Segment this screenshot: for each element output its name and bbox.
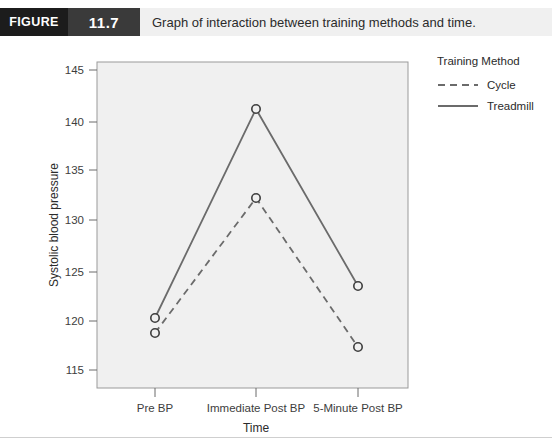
chart-legend: Training Method Cycle Treadmill [437,55,534,112]
cycle-point-immediate-post-bp [252,194,260,202]
y-axis-title: Systolic blood pressure [47,163,61,287]
x-tick-label-immediate-post-bp: Immediate Post BP [207,402,306,414]
x-axis: Pre BP Immediate Post BP 5-Minute Post B… [137,388,403,414]
chart-container: 145 140 135 130 125 120 115 Systolic blo… [0,40,552,435]
figure-label: FIGURE [0,8,68,36]
treadmill-point-pre-bp [151,314,159,322]
legend-label-cycle: Cycle [487,79,516,91]
y-tick-label-130: 130 [65,214,84,226]
cycle-point-pre-bp [151,329,159,337]
y-tick-label-115: 115 [66,364,84,376]
y-tick-label-125: 125 [65,266,84,278]
x-tick-label-pre-bp: Pre BP [137,402,174,414]
legend-title: Training Method [437,55,520,67]
interaction-line-chart: 145 140 135 130 125 120 115 Systolic blo… [0,40,552,435]
y-tick-label-140: 140 [65,116,84,128]
legend-label-treadmill: Treadmill [487,100,534,112]
treadmill-point-immediate-post-bp [252,105,260,113]
y-tick-label-120: 120 [65,315,84,327]
cycle-point-5-minute-post-bp [354,343,362,351]
x-tick-label-5-minute-post-bp: 5-Minute Post BP [313,402,403,414]
y-tick-label-145: 145 [65,64,84,76]
page-divider-rule [0,437,552,438]
treadmill-point-5-minute-post-bp [354,282,362,290]
figure-number: 11.7 [68,8,140,36]
y-axis: 145 140 135 130 125 120 115 [65,64,97,376]
y-tick-label-135: 135 [65,164,84,176]
figure-header-bar: FIGURE 11.7 Graph of interaction between… [0,8,552,36]
figure-caption: Graph of interaction between training me… [152,8,476,36]
x-axis-title: Time [243,421,270,435]
